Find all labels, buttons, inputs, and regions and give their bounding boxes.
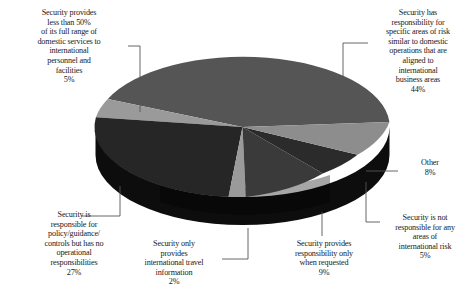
label-other: Other 8% (400, 158, 460, 177)
pie-3d-body (94, 57, 389, 225)
label-specific-areas: Security has responsibility for specific… (370, 8, 466, 94)
label-less-than-50: Security provides less than 50% of its f… (8, 8, 130, 85)
pie-chart-page: Security provides less than 50% of its f… (0, 0, 470, 297)
label-travel-info: Security only provides international tra… (126, 239, 222, 287)
leader-line-travel-info (222, 228, 248, 259)
label-policy-guidance: Security is responsible for policy/guida… (18, 210, 130, 277)
label-not-responsible: Security is not responsible for any area… (382, 213, 468, 261)
label-when-requested: Security provides responsibility only wh… (272, 239, 376, 277)
